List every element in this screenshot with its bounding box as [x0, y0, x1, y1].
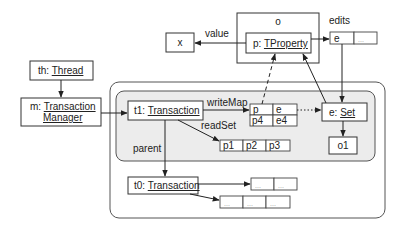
thread-prefix: th:	[38, 65, 52, 76]
t0-array-1-cell-1: ...	[278, 182, 284, 189]
writemap-cell-1-1: e4	[276, 115, 288, 126]
readset-edge-label: readSet	[201, 120, 236, 131]
svg-text:p: TProperty: p: TProperty	[253, 38, 308, 49]
o1-label: o1	[337, 140, 349, 151]
t0-array-1: ... ...	[251, 178, 297, 190]
node-t0-transaction: t0: Transaction	[128, 177, 200, 194]
writemap-cell-1-0: p4	[252, 115, 264, 126]
diagram-canvas: o p: TProperty x value edits e ... th: T…	[0, 0, 403, 229]
svg-text:m: Transaction: m: Transaction	[30, 101, 96, 112]
t0-prefix: t0:	[134, 180, 148, 191]
t0-array-2-cell-1: ...	[247, 200, 253, 207]
readset-cell-1: p2	[246, 140, 258, 151]
t1-type: Transaction	[148, 105, 200, 116]
svg-text:e: Set: e: Set	[329, 107, 355, 118]
t0-array-2-cell-2: ...	[270, 200, 276, 207]
writemap-cell-0-1: e	[276, 104, 282, 115]
eset-prefix: e:	[329, 107, 340, 118]
tproperty-type: TProperty	[264, 38, 308, 49]
node-thread: th: Thread	[30, 61, 93, 80]
readset-array: p1 p2 p3	[220, 140, 290, 151]
t0-array-2: ... ... ...	[220, 196, 290, 208]
node-e-set: e: Set	[322, 103, 367, 121]
thread-type: Thread	[52, 65, 84, 76]
readset-cell-2: p3	[269, 140, 281, 151]
t0-array-1-cell-0: ...	[255, 182, 261, 189]
value-edge-label: value	[205, 28, 229, 39]
node-transaction-manager: m: Transaction Manager	[21, 98, 101, 126]
eset-type: Set	[340, 107, 355, 118]
writemap-cell-0-0: p	[253, 104, 259, 115]
svg-text:th: Thread: th: Thread	[38, 65, 83, 76]
node-t1-transaction: t1: Transaction	[128, 101, 203, 120]
node-x: x	[166, 33, 194, 52]
manager-type-line2: Manager	[43, 112, 83, 123]
manager-type-line1: Transaction	[44, 101, 96, 112]
svg-text:t0: Transaction: t0: Transaction	[134, 180, 200, 191]
node-tproperty: p: TProperty	[246, 33, 311, 53]
writemap-edge-label: writeMap	[206, 97, 248, 108]
manager-prefix: m:	[30, 101, 44, 112]
edits-array: e ...	[330, 32, 377, 44]
edits-cell-1: ...	[358, 36, 364, 43]
t0-type: Transaction	[148, 180, 200, 191]
t0-array-2-cell-0: ...	[224, 200, 230, 207]
writemap-table: p e p4 e4	[250, 104, 297, 126]
edits-edge-label: edits	[329, 15, 350, 26]
readset-cell-0: p1	[223, 140, 235, 151]
object-o-label: o	[275, 16, 281, 27]
parent-edge-label: parent	[133, 143, 162, 154]
edits-cell-0: e	[334, 33, 340, 44]
t1-prefix: t1:	[134, 105, 148, 116]
svg-text:t1: Transaction: t1: Transaction	[134, 105, 200, 116]
node-o1: o1	[329, 137, 357, 154]
tproperty-prefix: p:	[253, 38, 264, 49]
node-x-label: x	[178, 37, 183, 48]
